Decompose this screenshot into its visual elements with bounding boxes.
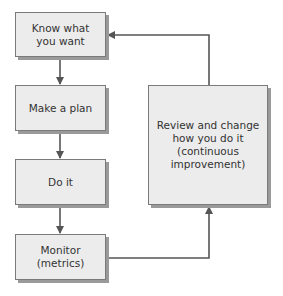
arrow-monitor-to-review: [106, 207, 209, 258]
node-review-and-change: Review and change how you do it (continu…: [148, 85, 268, 205]
node-label: Make a plan: [29, 102, 92, 115]
node-do-it: Do it: [15, 159, 106, 205]
node-label: Monitor (metrics): [37, 244, 84, 270]
node-make-a-plan: Make a plan: [15, 85, 106, 131]
node-label: Know what you want: [32, 22, 90, 48]
node-label: Review and change how you do it (continu…: [157, 119, 260, 171]
arrow-review-to-know: [108, 35, 209, 85]
node-label: Do it: [48, 176, 73, 189]
node-monitor: Monitor (metrics): [15, 234, 106, 280]
node-know-what-you-want: Know what you want: [15, 12, 106, 57]
